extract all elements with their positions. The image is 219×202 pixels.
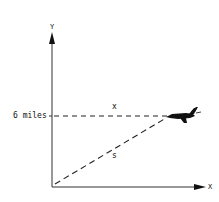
airplane-icon (166, 107, 201, 123)
height-label: 6 miles (13, 112, 47, 120)
x-axis (52, 184, 206, 190)
y-axis-arrow-icon (49, 32, 55, 44)
hypotenuse-dashed-line-s (55, 118, 166, 184)
diagram-graphics (0, 0, 219, 202)
hypotenuse-label: s (112, 152, 117, 160)
y-axis-label: Y (50, 23, 54, 31)
x-axis-label: X (208, 183, 212, 191)
horizontal-segment-label: x (112, 103, 117, 111)
x-axis-arrow-icon (194, 184, 206, 190)
y-axis (49, 32, 55, 187)
diagram-canvas: Y X 6 miles x s (0, 0, 219, 202)
